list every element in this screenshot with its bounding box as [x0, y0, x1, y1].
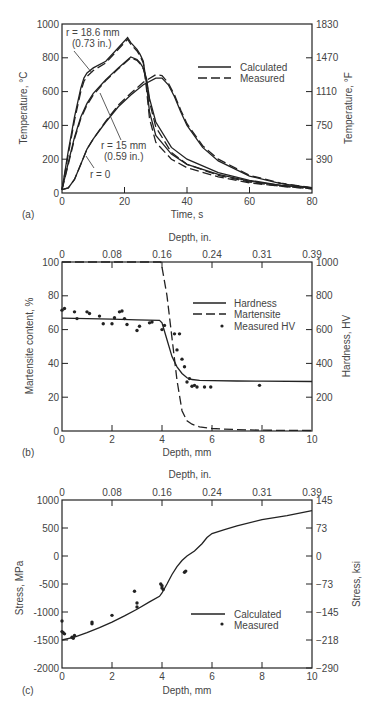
data-point	[102, 322, 105, 325]
x-tick-label: 8	[259, 434, 265, 445]
legend-label-measured: Measured	[240, 73, 284, 84]
legend-label-calculated-c: Calculated	[234, 609, 281, 620]
data-point	[135, 601, 138, 604]
y-tick-label: 40	[48, 358, 60, 369]
series-b	[60, 262, 312, 431]
x-tick-label: 2	[109, 434, 115, 445]
data-point	[63, 632, 66, 635]
y-tick-labels-b: 020406080100	[42, 257, 68, 437]
panel-label-c: (c)	[22, 685, 34, 696]
x-top-tick-label: 0.08	[102, 487, 122, 498]
annotation-r0-leader	[86, 156, 94, 168]
panel-label-a: (a)	[22, 209, 34, 220]
x-top-tick-label: 0.24	[202, 487, 222, 498]
y-right-tick-label: 1470	[316, 52, 339, 63]
x-tick-label: 6	[209, 434, 215, 445]
data-point	[188, 377, 191, 380]
x-tick-labels-b: 0246810	[59, 425, 318, 445]
series-line-martensite	[62, 262, 312, 431]
annotation-r15-leader	[100, 93, 121, 140]
data-point	[258, 384, 261, 387]
y-right-tick-labels-a: 390750111014701830	[306, 19, 339, 165]
data-point	[98, 314, 101, 317]
data-point	[90, 622, 93, 625]
top-axis-title-c: Depth, in.	[169, 469, 212, 480]
data-point	[125, 323, 128, 326]
y-right-tick-label: 390	[316, 154, 333, 165]
y-right-tick-label: −73	[316, 579, 333, 590]
x-top-tick-label: 0	[59, 249, 65, 260]
y-tick-label: 200	[42, 154, 59, 165]
data-point	[178, 332, 181, 335]
x-top-tick-label: 0.24	[202, 249, 222, 260]
x-tick-label: 8	[259, 671, 265, 682]
data-point	[183, 365, 186, 368]
legend-label-hardness: Hardness	[234, 298, 277, 309]
x-tick-label: 0	[59, 671, 65, 682]
x-top-tick-label: 0.08	[102, 249, 122, 260]
annotation-r15-line2: (0.59 in.)	[104, 151, 143, 162]
y-tick-label: 0	[53, 426, 59, 437]
data-point	[60, 619, 63, 622]
y-tick-labels-a: 02004006008001000	[37, 19, 68, 199]
legend-b: Hardness Martensite Measured HV	[193, 298, 295, 332]
panel-label-b: (b)	[22, 447, 34, 458]
x-top-tick-labels-b: 00.080.160.240.310.39	[59, 249, 322, 268]
data-point	[160, 328, 163, 331]
plot-frame-c	[62, 500, 312, 668]
x-tick-label: 0	[59, 196, 65, 207]
annotation-r18: r = 18.6 mm (0.73 in.)	[66, 27, 120, 73]
plot-frame-a	[62, 24, 312, 193]
plot-frame-b	[62, 262, 312, 431]
annotation-r0-line1: r = 0	[90, 169, 111, 180]
y-tick-label: -1500	[33, 635, 59, 646]
y-tick-label: -1000	[33, 607, 59, 618]
y-right-tick-label: 73	[316, 523, 328, 534]
x-tick-label: 4	[159, 434, 165, 445]
y-tick-label: 1000	[37, 19, 60, 30]
x-tick-label: 2	[109, 671, 115, 682]
x-axis-title-b: Depth, mm	[163, 447, 212, 458]
data-point	[180, 357, 183, 360]
annotation-r15-line1: r = 15 mm	[101, 140, 146, 151]
y-tick-label: 100	[42, 257, 59, 268]
y-tick-label: 60	[48, 324, 60, 335]
x-tick-labels-c: 0246810	[59, 662, 318, 682]
x-tick-label: 60	[244, 196, 256, 207]
data-point	[73, 634, 76, 637]
x-top-tick-label: 0	[59, 487, 65, 498]
y-right-tick-label: 800	[316, 290, 333, 301]
y-tick-label: 1000	[37, 495, 60, 506]
x-top-tick-label: 0.31	[252, 487, 272, 498]
data-point	[195, 385, 198, 388]
y-axis-title-a: Temperature, °C	[18, 72, 29, 145]
data-point	[135, 605, 138, 608]
data-point	[123, 317, 126, 320]
data-point	[138, 325, 141, 328]
y-right-tick-label: 750	[316, 120, 333, 131]
y-tick-label: 0	[53, 188, 59, 199]
y-tick-labels-c: -2000-1500-1000-50005001000	[33, 495, 68, 674]
legend-label-measured-hv: Measured HV	[234, 321, 295, 332]
y-tick-label: 800	[42, 52, 59, 63]
x-tick-label: 20	[119, 196, 131, 207]
data-point	[63, 307, 66, 310]
legend-label-calculated: Calculated	[240, 62, 287, 73]
data-point	[113, 316, 116, 319]
data-point	[73, 310, 76, 313]
legend-swatch-measured-hv	[220, 324, 223, 327]
chart-a: 020406080 02004006008001000 390750111014…	[18, 19, 354, 221]
y-right-tick-labels-b: 2004006008001000	[306, 257, 339, 403]
data-point	[163, 324, 166, 327]
y-right-tick-label: 400	[316, 358, 333, 369]
data-point	[175, 348, 178, 351]
y-tick-label: 80	[48, 290, 60, 301]
data-point	[209, 385, 212, 388]
y-right-tick-label: −218	[316, 635, 339, 646]
legend-label-measured-c: Measured	[234, 620, 278, 631]
x-tick-label: 4	[159, 671, 165, 682]
y-axis-title-c: Stress, MPa	[14, 560, 25, 615]
x-axis-title-a: Time, s	[171, 209, 203, 220]
x-tick-label: 80	[306, 196, 318, 207]
x-tick-labels-a: 020406080	[59, 187, 318, 207]
